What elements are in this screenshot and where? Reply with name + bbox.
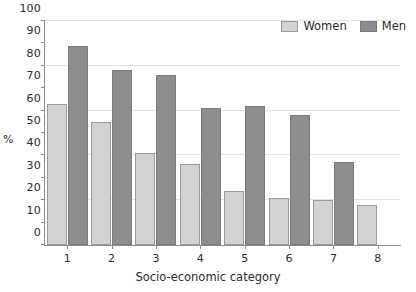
y-axis-tick-label: 90 xyxy=(27,24,41,37)
x-axis-tick-label: 4 xyxy=(197,252,204,265)
bar-women-category-6 xyxy=(269,198,289,245)
bar-men-category-6 xyxy=(290,115,310,245)
bar-men-category-5 xyxy=(245,106,265,245)
bar-men-category-1 xyxy=(68,46,88,245)
bar-women-category-4 xyxy=(180,164,200,245)
y-axis-tick-label: 80 xyxy=(27,46,41,59)
y-axis-tick-label: 10 xyxy=(27,203,41,216)
x-axis-tick-label: 5 xyxy=(241,252,248,265)
x-axis-tick-label: 8 xyxy=(374,252,381,265)
y-axis-tick-label: 50 xyxy=(27,114,41,127)
y-axis-title: % xyxy=(3,133,13,146)
x-axis-tick-mark xyxy=(156,245,157,249)
y-axis-tick-mark xyxy=(41,199,45,200)
y-axis-tick-mark xyxy=(41,177,45,178)
plot-area: 0102030405060708090100 xyxy=(45,21,400,245)
bar-women-category-2 xyxy=(91,122,111,245)
y-axis-tick-label: 0 xyxy=(34,226,41,239)
x-axis-tick-mark xyxy=(289,245,290,249)
y-axis-tick-mark xyxy=(41,65,45,66)
x-axis-title: Socio-economic category xyxy=(0,270,416,284)
bar-chart: Women Men % 0102030405060708090100 Socio… xyxy=(0,0,416,292)
bar-women-category-1 xyxy=(47,104,67,245)
gridline xyxy=(45,65,400,66)
x-axis-tick-mark xyxy=(245,245,246,249)
x-axis-line xyxy=(44,245,401,246)
y-axis-tick-mark xyxy=(41,20,45,21)
y-axis-tick-mark xyxy=(41,110,45,111)
y-axis-tick-label: 20 xyxy=(27,181,41,194)
x-axis-tick-mark xyxy=(378,245,379,249)
bar-women-category-5 xyxy=(224,191,244,245)
bar-men-category-4 xyxy=(201,108,221,245)
bar-women-category-8 xyxy=(357,205,377,245)
x-axis-tick-label: 6 xyxy=(286,252,293,265)
bar-women-category-7 xyxy=(313,200,333,245)
x-axis-tick-label: 7 xyxy=(330,252,337,265)
x-axis-tick-mark xyxy=(67,245,68,249)
y-axis-tick-mark xyxy=(41,87,45,88)
y-axis-tick-mark xyxy=(41,42,45,43)
bar-women-category-3 xyxy=(135,153,155,245)
y-axis-tick-label: 40 xyxy=(27,136,41,149)
x-axis-tick-mark xyxy=(200,245,201,249)
y-axis-tick-label: 100 xyxy=(19,2,41,15)
x-axis-tick-label: 3 xyxy=(152,252,159,265)
x-axis-tick-mark xyxy=(112,245,113,249)
bar-men-category-7 xyxy=(334,162,354,245)
y-axis-tick-mark xyxy=(41,154,45,155)
x-axis-tick-label: 1 xyxy=(64,252,71,265)
y-axis-tick-mark xyxy=(41,132,45,133)
x-axis-tick-label: 2 xyxy=(108,252,115,265)
y-axis-tick-label: 60 xyxy=(27,91,41,104)
y-axis-tick-mark xyxy=(41,222,45,223)
x-axis-tick-mark xyxy=(333,245,334,249)
y-axis-tick-mark xyxy=(41,244,45,245)
y-axis-tick-label: 70 xyxy=(27,69,41,82)
bar-men-category-3 xyxy=(156,75,176,245)
gridline xyxy=(45,20,400,21)
gridline xyxy=(45,110,400,111)
y-axis-tick-label: 30 xyxy=(27,158,41,171)
bar-men-category-2 xyxy=(112,70,132,245)
